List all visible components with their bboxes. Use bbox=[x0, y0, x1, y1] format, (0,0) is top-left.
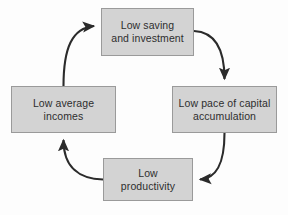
node-low-average-incomes: Low average incomes bbox=[11, 86, 116, 133]
node-low-productivity: Low productivity bbox=[103, 158, 193, 201]
arrow-saving-to-capital bbox=[194, 31, 225, 79]
node-low-pace-of-capital-accumulation: Low pace of capital accumulation bbox=[172, 86, 277, 133]
arrow-incomes-to-saving bbox=[64, 26, 95, 86]
cycle-diagram: Low saving and investment Low pace of ca… bbox=[0, 0, 288, 215]
node-label: Low average incomes bbox=[29, 97, 98, 123]
arrow-productivity-to-incomes bbox=[64, 140, 104, 180]
arrow-capital-to-productivity bbox=[200, 133, 225, 180]
node-label: Low saving and investment bbox=[107, 19, 188, 45]
node-low-saving-and-investment: Low saving and investment bbox=[101, 8, 194, 56]
node-label: Low productivity bbox=[117, 167, 179, 193]
node-label: Low pace of capital accumulation bbox=[175, 97, 275, 123]
